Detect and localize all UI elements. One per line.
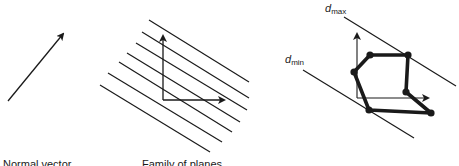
polygon-axes xyxy=(357,34,428,98)
extent-planes xyxy=(303,17,456,138)
polygon-vertex-1 xyxy=(366,51,373,58)
diagram-canvas: dmax dmin Normal vector Family of planes xyxy=(0,0,459,166)
polygon-vertex-4 xyxy=(427,109,434,116)
polygon-vertex-6 xyxy=(350,68,357,75)
diagram-svg xyxy=(0,0,459,166)
family-of-planes-lines xyxy=(100,20,249,152)
dmax-label-sub: max xyxy=(331,7,346,16)
polygon-vertex-2 xyxy=(404,51,411,58)
plane-line-7 xyxy=(100,85,210,152)
plane-line-6 xyxy=(108,73,222,142)
dmax-plane-line xyxy=(344,17,456,86)
polygon-vertex-5 xyxy=(365,106,372,113)
plane-line-1 xyxy=(149,20,249,82)
normal-arrow-line xyxy=(8,34,63,101)
dmin-label-sub: min xyxy=(291,58,304,67)
plane-line-5 xyxy=(119,62,232,132)
dmax-label: dmax xyxy=(325,2,346,16)
family-of-planes-caption: Family of planes xyxy=(142,158,222,166)
plane-line-2 xyxy=(142,32,249,98)
polygon-vertex-3 xyxy=(402,88,409,95)
normal-vector-caption: Normal vector xyxy=(3,158,71,166)
normal-vector-arrow xyxy=(8,34,63,101)
dmin-label: dmin xyxy=(285,53,304,67)
